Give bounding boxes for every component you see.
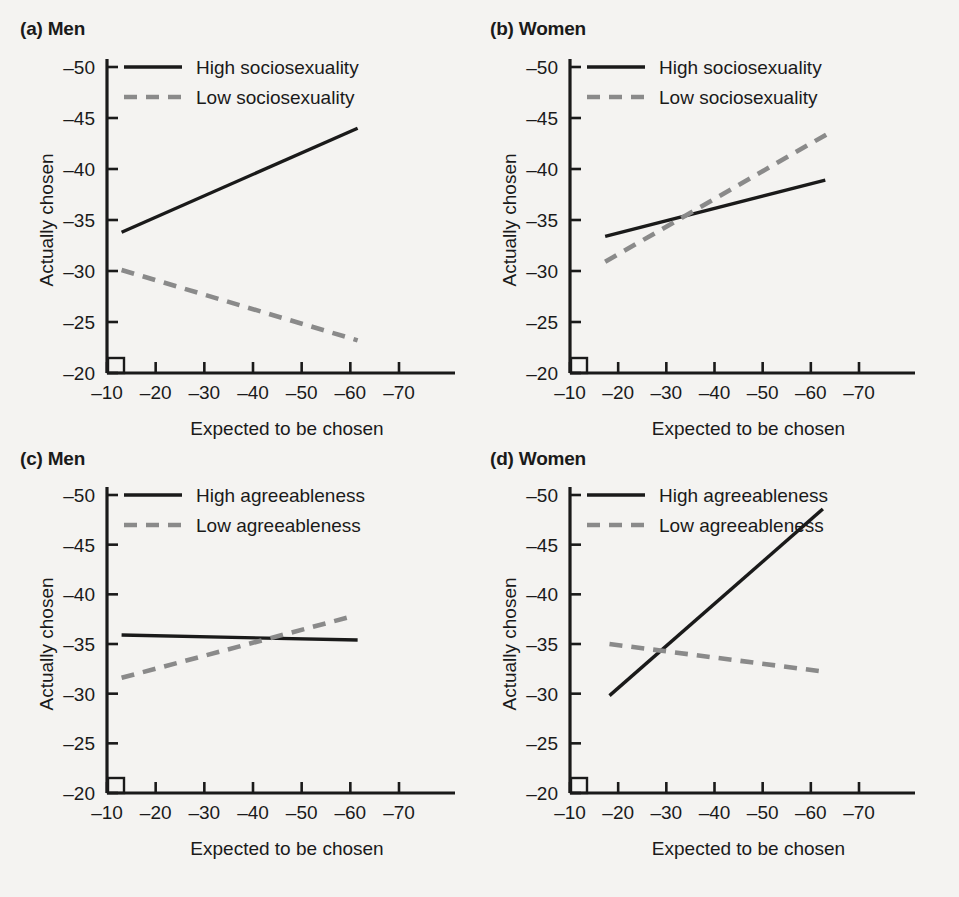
- y-tick-label: –45: [63, 535, 95, 556]
- panel-d-plot: –20–25–30–35–40–45–50–10–20–30–40–50–60–…: [470, 430, 959, 897]
- y-tick-label: –20: [526, 363, 558, 384]
- y-tick-label: –35: [63, 634, 95, 655]
- y-tick-label: –35: [63, 210, 95, 231]
- y-axis-title: Actually chosen: [36, 153, 57, 286]
- y-tick-label: –25: [526, 312, 558, 333]
- y-tick-label: –35: [526, 210, 558, 231]
- x-tick-label: –70: [383, 802, 415, 823]
- x-tick-label: –20: [140, 802, 172, 823]
- x-tick-label: –30: [188, 802, 220, 823]
- panel-a: (a) Men –20–25–30–35–40–45–50–10–20–30–4…: [0, 0, 480, 440]
- x-axis-title: Expected to be chosen: [652, 838, 845, 859]
- x-tick-label: –50: [747, 382, 779, 403]
- y-tick-label: –45: [526, 108, 558, 129]
- panel-c-plot: –20–25–30–35–40–45–50–10–20–30–40–50–60–…: [0, 430, 480, 897]
- y-tick-label: –50: [526, 57, 558, 78]
- x-tick-label: –70: [383, 382, 415, 403]
- figure-multi-panel-chart: (a) Men –20–25–30–35–40–45–50–10–20–30–4…: [0, 0, 959, 897]
- x-tick-label: –70: [843, 802, 875, 823]
- axis-break-notch: [108, 358, 124, 373]
- x-tick-label: –20: [602, 382, 634, 403]
- legend-label: Low sociosexuality: [659, 87, 818, 108]
- x-tick-label: –30: [650, 382, 682, 403]
- y-tick-label: –30: [63, 684, 95, 705]
- x-tick-label: –40: [237, 802, 269, 823]
- y-tick-label: –20: [63, 363, 95, 384]
- y-axis-title: Actually chosen: [499, 577, 520, 710]
- legend-label: Low agreeableness: [659, 515, 824, 536]
- panel-d-title: (d) Women: [490, 448, 586, 470]
- x-tick-label: –60: [334, 382, 366, 403]
- y-tick-label: –50: [526, 485, 558, 506]
- y-tick-label: –30: [63, 261, 95, 282]
- legend-label: High sociosexuality: [659, 57, 822, 78]
- y-tick-label: –35: [526, 634, 558, 655]
- legend-label: High sociosexuality: [196, 57, 359, 78]
- y-tick-label: –30: [526, 261, 558, 282]
- x-tick-label: –20: [140, 382, 172, 403]
- y-tick-label: –30: [526, 684, 558, 705]
- panel-c: (c) Men –20–25–30–35–40–45–50–10–20–30–4…: [0, 430, 480, 897]
- y-tick-label: –25: [63, 733, 95, 754]
- series-line-solid: [122, 128, 358, 232]
- y-tick-label: –40: [63, 159, 95, 180]
- x-tick-label: –70: [843, 382, 875, 403]
- panel-b-plot: –20–25–30–35–40–45–50–10–20–30–40–50–60–…: [470, 0, 959, 440]
- x-tick-label: –60: [795, 802, 827, 823]
- x-tick-label: –30: [650, 802, 682, 823]
- panel-b-title: (b) Women: [490, 18, 586, 40]
- x-tick-label: –60: [334, 802, 366, 823]
- legend-label: Low agreeableness: [196, 515, 361, 536]
- axis-break-notch: [571, 778, 587, 793]
- y-axis-title: Actually chosen: [499, 153, 520, 286]
- legend-label: High agreeableness: [196, 485, 365, 506]
- y-tick-label: –45: [526, 535, 558, 556]
- x-tick-label: –20: [602, 802, 634, 823]
- x-tick-label: –10: [91, 802, 123, 823]
- x-tick-label: –30: [188, 382, 220, 403]
- x-tick-label: –10: [91, 382, 123, 403]
- axis-break-notch: [571, 358, 587, 373]
- series-line-solid: [122, 635, 358, 640]
- x-tick-label: –60: [795, 382, 827, 403]
- y-tick-label: –40: [526, 584, 558, 605]
- y-tick-label: –45: [63, 108, 95, 129]
- panel-a-plot: –20–25–30–35–40–45–50–10–20–30–40–50–60–…: [0, 0, 480, 440]
- legend-label: Low sociosexuality: [196, 87, 355, 108]
- panel-d: (d) Women –20–25–30–35–40–45–50–10–20–30…: [470, 430, 959, 897]
- y-tick-label: –40: [526, 159, 558, 180]
- series-line-dashed: [122, 616, 353, 678]
- y-tick-label: –40: [63, 584, 95, 605]
- y-tick-label: –50: [63, 485, 95, 506]
- series-line-dashed: [122, 270, 358, 340]
- y-tick-label: –50: [63, 57, 95, 78]
- y-tick-label: –25: [63, 312, 95, 333]
- x-tick-label: –50: [286, 382, 318, 403]
- x-tick-label: –40: [237, 382, 269, 403]
- legend-label: High agreeableness: [659, 485, 828, 506]
- x-axis-title: Expected to be chosen: [190, 838, 383, 859]
- y-tick-label: –25: [526, 733, 558, 754]
- x-tick-label: –50: [286, 802, 318, 823]
- x-tick-label: –10: [554, 802, 586, 823]
- x-tick-label: –50: [747, 802, 779, 823]
- series-line-dashed: [605, 134, 827, 262]
- panel-a-title: (a) Men: [20, 18, 85, 40]
- y-axis-title: Actually chosen: [36, 577, 57, 710]
- x-tick-label: –40: [699, 802, 731, 823]
- series-line-solid: [605, 180, 825, 236]
- x-tick-label: –10: [554, 382, 586, 403]
- x-tick-label: –40: [699, 382, 731, 403]
- y-tick-label: –20: [63, 783, 95, 804]
- panel-c-title: (c) Men: [20, 448, 85, 470]
- axis-break-notch: [108, 778, 124, 793]
- y-tick-label: –20: [526, 783, 558, 804]
- panel-b: (b) Women –20–25–30–35–40–45–50–10–20–30…: [470, 0, 959, 440]
